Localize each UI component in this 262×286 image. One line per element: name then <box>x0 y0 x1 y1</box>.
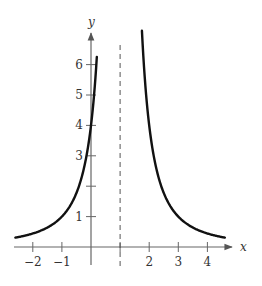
y-tick-label: 4 <box>75 118 83 132</box>
curve-branches <box>15 31 225 238</box>
y-tick-label: 3 <box>75 149 83 163</box>
right-branch <box>142 31 225 238</box>
x-tick-label: 3 <box>174 255 182 269</box>
y-tick-label: 1 <box>75 210 83 224</box>
x-tick-label: −2 <box>24 255 42 269</box>
function-graph: −2−123413456 x y <box>0 0 262 286</box>
x-tick-label: −1 <box>53 255 71 269</box>
y-axis-label: y <box>87 15 95 29</box>
axis-ticks: −2−123413456 <box>24 58 212 269</box>
x-axis-label: x <box>240 240 247 254</box>
left-branch <box>15 57 96 238</box>
x-tick-label: 4 <box>204 255 212 269</box>
y-tick-label: 6 <box>75 58 83 72</box>
y-tick-label: 5 <box>75 88 83 102</box>
x-tick-label: 2 <box>145 255 153 269</box>
